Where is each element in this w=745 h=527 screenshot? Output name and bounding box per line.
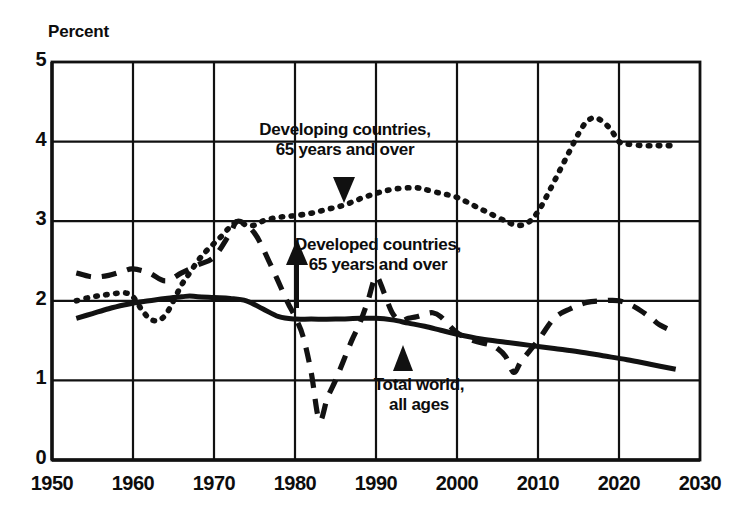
x-tick-label-1960: 1960 [103,472,163,495]
y-tick-label-5: 5 [26,48,46,71]
x-tick-label-2020: 2020 [589,472,649,495]
annotation-developed-line1: Developed countries, [295,235,461,254]
annotation-total-world-line1: Total world, [374,375,465,394]
annotation-total-world: Total world, all ages [344,375,494,415]
annotation-developing-countries: Developing countries, 65 years and over [250,120,440,160]
y-tick-label-4: 4 [26,128,46,151]
x-tick-label-1980: 1980 [265,472,325,495]
annotation-developed-line2: 65 years and over [283,255,473,275]
y-tick-label-3: 3 [26,207,46,230]
chart-container: Percent 012345 1950196019701980199020002… [0,0,745,527]
arrow-total-world [393,345,413,371]
x-tick-label-1990: 1990 [346,472,406,495]
y-tick-label-0: 0 [26,446,46,469]
x-tick-label-2010: 2010 [508,472,568,495]
x-tick-label-1970: 1970 [184,472,244,495]
annotation-developing-line1: Developing countries, [259,120,430,139]
annotation-developed-countries: Developed countries, 65 years and over [283,235,473,275]
arrow-developing-countries [333,177,355,203]
x-tick-label-2000: 2000 [427,472,487,495]
x-tick-label-1950: 1950 [22,472,82,495]
annotation-total-world-line2: all ages [344,395,494,415]
y-tick-label-1: 1 [26,366,46,389]
x-tick-label-2030: 2030 [670,472,730,495]
y-tick-label-2: 2 [26,287,46,310]
annotation-developing-line2: 65 years and over [250,140,440,160]
